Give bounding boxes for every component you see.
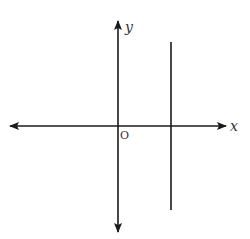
x-axis-label: x — [230, 118, 238, 134]
y-axis-label: y — [124, 19, 134, 35]
coordinate-plane: x y O — [0, 0, 250, 239]
origin-label: O — [120, 129, 129, 142]
